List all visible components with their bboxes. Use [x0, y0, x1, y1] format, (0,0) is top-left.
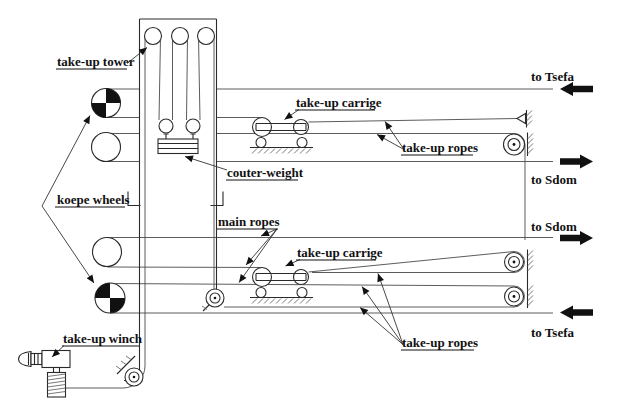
leader-koepe-bottom — [42, 206, 94, 283]
leader-carriage-top — [285, 110, 300, 120]
carriage-top-wheel-1 — [256, 138, 266, 148]
koepe-wheel-bottom-drive — [95, 283, 125, 313]
koepe-wheel-top-drive — [92, 89, 121, 118]
leader-ropes-bottom-2 — [362, 287, 403, 345]
carriage-top-sheave-large — [253, 118, 272, 137]
counter-weight-sheave-1 — [159, 119, 173, 133]
tower-foot-pulley-right — [202, 289, 224, 311]
arrow-left-to-tsefa-top-icon — [560, 82, 593, 96]
to-sdom-bottom-label: to Sdom — [531, 219, 577, 234]
carriage-bottom-track-hatch — [252, 299, 311, 304]
counter-weight — [158, 139, 198, 154]
text-labels: take-up tower koepe wheels couter-weight… — [55, 54, 577, 350]
diagram-canvas: take-up tower koepe wheels couter-weight… — [0, 0, 618, 416]
arrow-right-to-sdom-top-icon — [560, 155, 593, 169]
take-up-winch-label: take-up winch — [63, 331, 143, 346]
tower-body — [140, 19, 217, 206]
tower-sheave-2 — [172, 28, 189, 45]
take-up-winch — [19, 351, 71, 398]
carriage-bottom-sheave-large — [253, 268, 272, 287]
take-up-carriage-bottom — [250, 268, 313, 304]
take-up-rope-top-1 — [309, 119, 518, 123]
arrow-left-to-tsefa-bottom-icon — [560, 306, 593, 320]
counter-weight-sheave-2 — [186, 119, 200, 133]
carriage-bottom-wheel-2 — [297, 288, 307, 298]
tower-sheave-1 — [145, 28, 162, 45]
carriage-top-track-hatch — [252, 149, 311, 154]
to-sdom-top-label: to Sdom — [531, 172, 577, 187]
carriage-bottom-wheel-1 — [256, 288, 266, 298]
tension-pulley-bottom-right-2 — [505, 287, 524, 306]
main-ropes-label: main ropes — [218, 214, 280, 229]
to-tsefa-top-label: to Tsefa — [531, 69, 574, 84]
direction-arrows — [560, 82, 593, 320]
take-up-carriage-top-label: take-up carrige — [296, 95, 382, 110]
counter-weight-label: couter-weight — [227, 165, 304, 180]
tower-sheave-3 — [198, 28, 215, 45]
take-up-ropes-bottom-label: take-up ropes — [402, 335, 478, 350]
to-tsefa-bottom-label: to Tsefa — [531, 325, 574, 340]
pulley-b-wall-hatch — [528, 251, 534, 307]
winch-coupling — [31, 354, 42, 365]
leader-main-ropes-2 — [246, 229, 277, 265]
take-up-tower-label: take-up tower — [57, 54, 135, 69]
koepe-wheels-label: koepe wheels — [57, 192, 130, 207]
haulage-system-diagram: take-up tower koepe wheels couter-weight… — [0, 0, 618, 416]
pulley-a-wall-hatch — [528, 134, 534, 155]
take-up-carriage-top — [250, 118, 313, 154]
koepe-wheel-bottom-idle — [93, 238, 122, 267]
take-up-ropes-top-label: take-up ropes — [402, 140, 478, 155]
winch-motor-bell — [19, 352, 32, 367]
take-up-carriage-bottom-label: take-up carrige — [297, 245, 383, 260]
tension-pulley-top-right — [504, 134, 525, 155]
winch-stem — [54, 368, 60, 373]
leader-ropes-top-2 — [377, 135, 404, 150]
take-up-rope-bottom-2 — [110, 284, 525, 308]
main-rope-to-carriage-bottom — [107, 267, 262, 268]
tension-pulley-bottom-right-1 — [505, 253, 524, 272]
carriage-top-wheel-2 — [297, 138, 307, 148]
rope-anchor-icon — [517, 114, 526, 124]
anchor-wall-hatch — [527, 111, 533, 127]
koepe-wheel-top-idle — [92, 133, 121, 162]
